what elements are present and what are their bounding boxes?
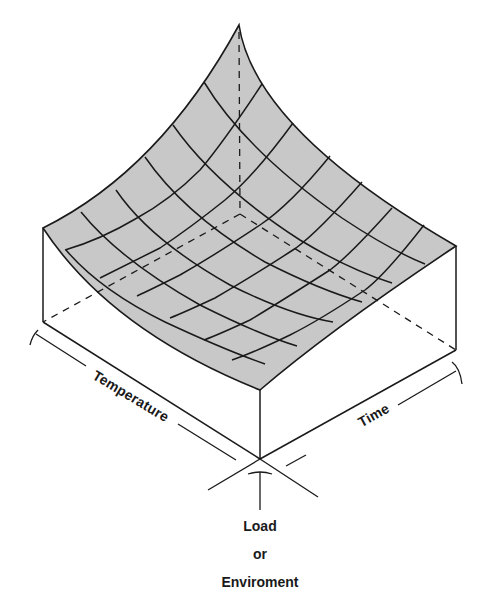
surface-diagram <box>0 0 486 597</box>
load-label-line-1: Load <box>210 512 310 540</box>
load-label-line-2: or <box>210 540 310 568</box>
load-label-line-3: Enviroment <box>210 568 310 596</box>
load-axis <box>208 459 318 510</box>
load-axis-label: Load or Enviroment <box>210 512 310 596</box>
